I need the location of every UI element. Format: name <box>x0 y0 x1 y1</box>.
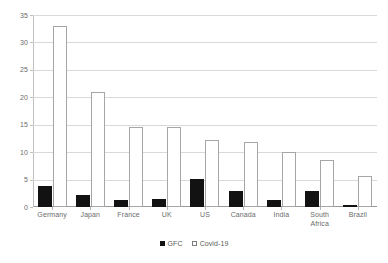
x-axis-category-label: India <box>262 211 300 228</box>
bar-gfc-germany[interactable] <box>38 186 52 207</box>
x-axis-category-label: UK <box>148 211 186 228</box>
x-axis-tick-mark <box>358 207 359 210</box>
x-axis-tick-mark <box>90 207 91 210</box>
x-axis-tick-mark <box>243 207 244 210</box>
bar-covid-19-japan[interactable] <box>91 92 105 207</box>
bar-gfc-south-africa[interactable] <box>305 191 319 207</box>
bar-covid-19-brazil[interactable] <box>358 176 372 207</box>
legend-item-covid-19[interactable]: Covid-19 <box>192 240 229 247</box>
bar-gfc-uk[interactable] <box>152 199 166 207</box>
x-axis-tick-mark <box>129 207 130 210</box>
chart-legend: GFCCovid-19 <box>0 240 388 247</box>
bar-group <box>186 15 224 207</box>
bar-gfc-canada[interactable] <box>229 191 243 207</box>
y-axis-tick-label: 20 <box>2 94 28 101</box>
x-axis-category-label: Germany <box>33 211 71 228</box>
x-axis-category-label: Brazil <box>339 211 377 228</box>
y-axis-tick-label: 15 <box>2 121 28 128</box>
x-axis-category-label: Canada <box>224 211 262 228</box>
bars-layer <box>33 15 377 207</box>
x-axis-tick-mark <box>167 207 168 210</box>
x-axis-category-label: Japan <box>71 211 109 228</box>
bar-group <box>301 15 339 207</box>
bar-covid-19-uk[interactable] <box>167 127 181 207</box>
bar-group <box>224 15 262 207</box>
bar-group <box>71 15 109 207</box>
x-axis-category-labels: GermanyJapanFranceUKUSCanadaIndiaSouth A… <box>33 211 377 228</box>
bar-covid-19-us[interactable] <box>205 140 219 207</box>
bar-covid-19-south-africa[interactable] <box>320 160 334 207</box>
legend-swatch-icon <box>192 241 197 246</box>
bar-covid-19-canada[interactable] <box>244 142 258 207</box>
y-axis-tick-mark <box>30 207 33 208</box>
bar-covid-19-india[interactable] <box>282 152 296 207</box>
y-axis-tick-label: 10 <box>2 149 28 156</box>
y-axis-tick-label: 0 <box>2 204 28 211</box>
x-axis-category-label: US <box>186 211 224 228</box>
bar-gfc-france[interactable] <box>114 200 128 207</box>
x-axis-tick-mark <box>52 207 53 210</box>
bar-chart: 05101520253035 GermanyJapanFranceUKUSCan… <box>0 0 388 263</box>
legend-label: GFC <box>168 240 183 247</box>
y-axis-tick-label: 30 <box>2 39 28 46</box>
bar-covid-19-germany[interactable] <box>53 26 67 207</box>
bar-gfc-india[interactable] <box>267 200 281 207</box>
x-axis-category-label: France <box>109 211 147 228</box>
x-axis-tick-mark <box>320 207 321 210</box>
bar-gfc-us[interactable] <box>190 179 204 207</box>
legend-swatch-icon <box>160 241 165 246</box>
y-axis-tick-label: 5 <box>2 176 28 183</box>
legend-item-gfc[interactable]: GFC <box>160 240 183 247</box>
bar-group <box>148 15 186 207</box>
y-axis-tick-label: 35 <box>2 12 28 19</box>
x-axis-tick-mark <box>205 207 206 210</box>
x-axis-category-label: South Africa <box>301 211 339 228</box>
y-axis-tick-label: 25 <box>2 66 28 73</box>
bar-gfc-japan[interactable] <box>76 195 90 207</box>
bar-group <box>339 15 377 207</box>
bar-group <box>109 15 147 207</box>
bar-group <box>33 15 71 207</box>
plot-area <box>33 15 377 207</box>
bar-gfc-brazil[interactable] <box>343 205 357 207</box>
bar-group <box>262 15 300 207</box>
bar-covid-19-france[interactable] <box>129 127 143 207</box>
legend-label: Covid-19 <box>200 240 229 247</box>
x-axis-tick-mark <box>281 207 282 210</box>
